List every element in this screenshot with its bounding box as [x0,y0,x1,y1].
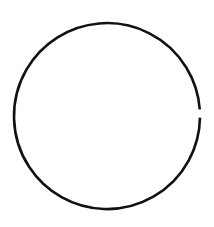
background [0,0,214,227]
diagram-canvas [0,0,214,227]
